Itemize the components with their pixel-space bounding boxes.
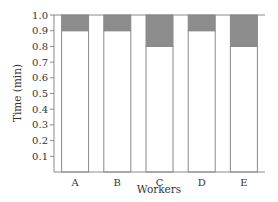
y-tick-label: 1.0 xyxy=(32,10,48,21)
bar-D xyxy=(188,15,215,172)
y-axis-title: Time (min) xyxy=(11,64,23,122)
y-tick-label: 0.2 xyxy=(32,135,48,146)
stacked-bar-chart: 0.10.20.30.40.50.60.70.80.91.0 ABCDE Wor… xyxy=(0,0,278,202)
bar-segment-D-lower xyxy=(188,31,215,172)
y-tick-label: 0.8 xyxy=(32,41,48,52)
bar-segment-E-upper xyxy=(230,15,257,46)
bar-segment-E-lower xyxy=(230,46,257,172)
bars-group xyxy=(62,15,258,172)
bar-segment-C-upper xyxy=(146,15,173,46)
y-tick-label: 0.9 xyxy=(32,25,48,36)
bar-segment-A-lower xyxy=(62,31,89,172)
y-tick-label: 0.6 xyxy=(32,72,48,83)
bar-B xyxy=(104,15,131,172)
y-tick-label: 0.5 xyxy=(32,88,48,99)
x-axis-title: Workers xyxy=(137,183,181,195)
y-tick-label: 0.3 xyxy=(32,119,48,130)
y-tick-label: 0.4 xyxy=(32,104,48,115)
y-tick-label: 0.1 xyxy=(32,151,48,162)
bar-segment-A-upper xyxy=(62,15,89,31)
y-tick-label: 0.7 xyxy=(32,57,48,68)
bar-segment-B-upper xyxy=(104,15,131,31)
x-tick-label: D xyxy=(198,177,206,188)
bar-E xyxy=(230,15,257,172)
bar-segment-D-upper xyxy=(188,15,215,31)
x-tick-label: E xyxy=(240,177,247,188)
bar-C xyxy=(146,15,173,172)
bar-A xyxy=(62,15,89,172)
x-tick-label: B xyxy=(114,177,121,188)
bar-segment-C-lower xyxy=(146,46,173,172)
x-tick-label: A xyxy=(70,177,79,188)
bar-segment-B-lower xyxy=(104,31,131,172)
y-axis-ticks: 0.10.20.30.40.50.60.70.80.91.0 xyxy=(32,10,54,162)
